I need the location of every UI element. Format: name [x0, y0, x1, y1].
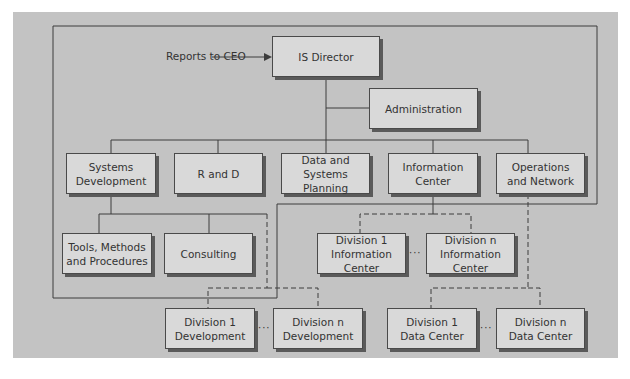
division-n-info-center-box: Division n Information Center: [426, 233, 515, 274]
systems-development-box: Systems Development: [66, 153, 156, 194]
ellipsis: ···: [480, 322, 493, 333]
information-center-box: Information Center: [388, 153, 478, 194]
r-and-d-box: R and D: [174, 153, 263, 194]
division-1-data-center-box: Division 1 Data Center: [387, 308, 477, 349]
division-1-development-box: Division 1 Development: [165, 308, 255, 349]
division-n-development-box: Division n Development: [273, 308, 363, 349]
data-systems-planning-box: Data and Systems Planning: [281, 153, 370, 194]
division-1-info-center-box: Division 1 Information Center: [317, 233, 406, 274]
division-n-data-center-box: Division n Data Center: [496, 308, 585, 349]
administration-box: Administration: [369, 88, 478, 129]
ellipsis: ···: [258, 322, 271, 333]
ellipsis: ···: [409, 247, 422, 258]
consulting-box: Consulting: [164, 233, 253, 274]
tools-methods-box: Tools, Methods and Procedures: [62, 233, 152, 274]
operations-network-box: Operations and Network: [496, 153, 585, 194]
is-director-box: IS Director: [272, 36, 380, 77]
reports-to-ceo-label: Reports to CEO: [166, 50, 246, 62]
